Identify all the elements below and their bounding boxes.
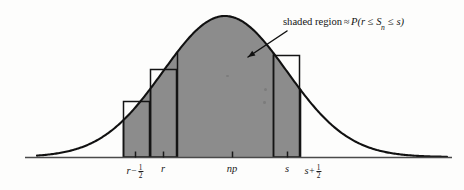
fraction-denominator: 2 [316,172,321,180]
axis-label-symbol: r [161,163,165,174]
axis-label-operator: + [309,166,316,176]
normal-approximation-figure: r−12rnpss+12 shaded region≈P(r ≤ Sn ≤ s) [0,0,464,190]
axis-label-r: r [161,164,165,175]
annotation-label: shaded region≈P(r ≤ Sn ≤ s) [283,17,404,30]
axis-label-operator: − [131,166,138,176]
subscript-n: n [381,23,385,32]
scan-speck [226,75,229,77]
axis-label-np: np [227,164,238,175]
axis-label-r-minus-half: r−12 [126,164,143,180]
annotation-prefix: shaded region [283,16,342,27]
axis-label-symbol: s [285,163,289,174]
axis-label-s-plus-half: s+12 [304,164,321,180]
axis-label-fraction: 12 [316,164,321,180]
fraction-denominator: 2 [138,172,143,180]
axis-label-s: s [285,164,289,175]
probability-expression: P(r ≤ S [351,16,382,27]
axis-label-fraction: 12 [138,164,143,180]
probability-tail: ≤ s) [385,16,404,27]
approx-symbol: ≈ [342,16,351,27]
axis-label-symbol: np [227,163,238,174]
